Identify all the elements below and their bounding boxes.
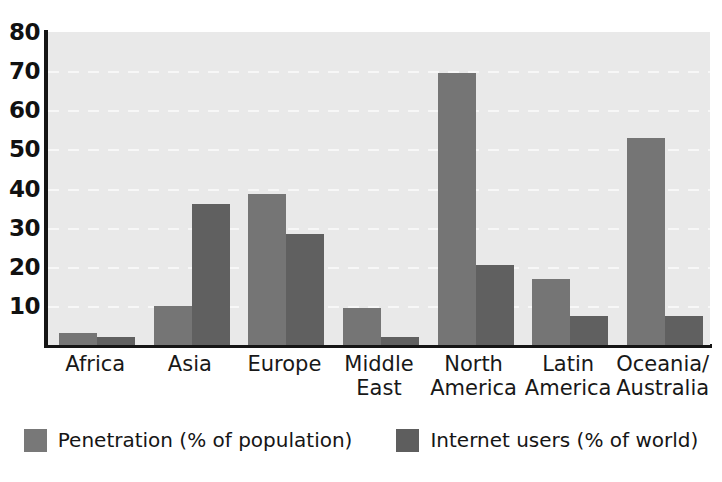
bar xyxy=(192,204,230,345)
y-axis-tick-label: 60 xyxy=(0,99,40,122)
legend-label: Penetration (% of population) xyxy=(58,430,353,450)
legend-swatch-penetration xyxy=(24,429,47,452)
y-axis-tick-label: 80 xyxy=(0,21,40,44)
x-axis-category-label: Asia xyxy=(143,352,238,376)
x-axis-category-label: Middle East xyxy=(332,352,427,401)
bar xyxy=(286,234,324,346)
x-axis-category-label: Latin America xyxy=(521,352,616,401)
bar xyxy=(665,316,703,345)
chart-legend: Penetration (% of population)Internet us… xyxy=(0,420,722,460)
bar xyxy=(570,316,608,345)
bar xyxy=(438,73,476,345)
bar xyxy=(381,337,419,345)
gridline xyxy=(48,149,710,151)
bar xyxy=(248,194,286,345)
y-axis-tick-label: 70 xyxy=(0,60,40,83)
legend-label: Internet users (% of world) xyxy=(430,430,698,450)
y-axis-tick-label: 40 xyxy=(0,178,40,201)
bar xyxy=(343,308,381,345)
x-axis-category-label: North America xyxy=(426,352,521,401)
legend-item[interactable]: Penetration (% of population) xyxy=(24,429,353,452)
bar-chart: 1020304050607080 AfricaAsiaEuropeMiddle … xyxy=(0,0,722,482)
bar xyxy=(97,337,135,345)
legend-swatch-internet-users xyxy=(396,429,419,452)
bar xyxy=(476,265,514,345)
bar xyxy=(154,306,192,345)
y-axis-tick-label: 50 xyxy=(0,138,40,161)
y-axis-tick-label: 10 xyxy=(0,295,40,318)
y-axis-labels: 1020304050607080 xyxy=(0,0,40,482)
legend-item[interactable]: Internet users (% of world) xyxy=(396,429,698,452)
y-axis-tick-label: 30 xyxy=(0,217,40,240)
y-axis-tick-label: 20 xyxy=(0,256,40,279)
x-axis-category-label: Oceania/ Australia xyxy=(615,352,710,401)
gridline xyxy=(48,71,710,73)
plot-area xyxy=(48,32,710,345)
gridline xyxy=(48,267,710,269)
bar xyxy=(532,279,570,346)
x-axis-category-label: Africa xyxy=(48,352,143,376)
gridline xyxy=(48,228,710,230)
x-axis-labels: AfricaAsiaEuropeMiddle EastNorth America… xyxy=(48,352,710,410)
gridline xyxy=(48,189,710,191)
bar xyxy=(59,333,97,345)
bar xyxy=(627,138,665,345)
x-axis-category-label: Europe xyxy=(237,352,332,376)
gridline xyxy=(48,110,710,112)
